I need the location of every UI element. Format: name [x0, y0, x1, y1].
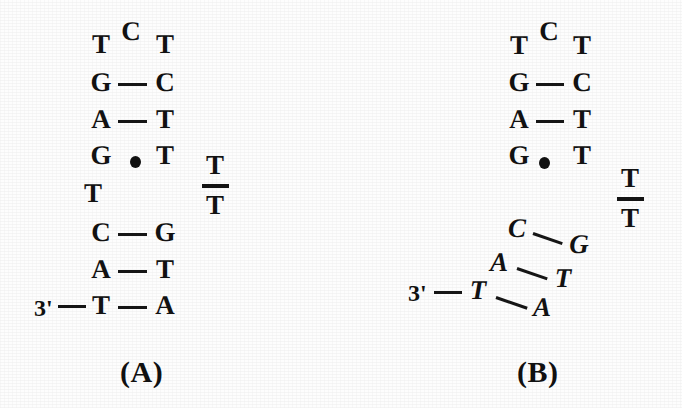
backbone-bond [58, 305, 86, 308]
hydrogen-bond [517, 267, 548, 280]
pair-left-base: T [88, 292, 114, 319]
pair-right-base: T [569, 142, 595, 169]
loop-right-base: T [569, 32, 595, 59]
pair-right-base: G [566, 231, 592, 258]
hydrogen-bond [536, 120, 564, 123]
hydrogen-bond [118, 306, 147, 309]
pair-right-base: T [152, 142, 178, 169]
hydrogen-bond [496, 296, 528, 310]
pair-right-base: C [152, 69, 178, 96]
hydrogen-bond [536, 83, 564, 86]
pair-right-base: T [152, 106, 178, 133]
figure-canvas: C T T G C A T G T T T T C G A T 3' [0, 0, 682, 408]
dangling-end-fraction: T T [613, 165, 647, 232]
pair-left-base: G [88, 69, 114, 96]
pair-left-base: A [506, 106, 532, 133]
three-prime-label: 3' [34, 296, 53, 320]
pair-left-base: G [506, 69, 532, 96]
pair-right-base: A [152, 292, 178, 319]
dangling-end-fraction: T T [198, 152, 232, 219]
fraction-numerator: T [198, 152, 232, 179]
fraction-numerator: T [613, 165, 647, 192]
bulge-base: T [80, 180, 106, 207]
pair-right-base: A [529, 294, 555, 321]
panel-a: C T T G C A T G T T T T C G A T 3' [0, 0, 341, 408]
fraction-denominator: T [613, 205, 647, 232]
pair-left-base: G [506, 142, 532, 169]
pair-left-base: A [88, 256, 114, 283]
pair-left-base: T [465, 277, 491, 304]
panel-caption: (B) [517, 355, 559, 389]
pair-right-base: C [569, 69, 595, 96]
backbone-bond [434, 291, 462, 294]
hydrogen-bond [118, 120, 147, 123]
loop-apex-base: C [536, 18, 562, 45]
fraction-rule [617, 197, 644, 201]
hydrogen-bond [118, 83, 147, 86]
fraction-denominator: T [198, 192, 232, 219]
hydrogen-bond [118, 270, 147, 273]
pair-right-base: T [550, 265, 576, 292]
loop-left-base: T [88, 31, 114, 58]
hydrogen-bond [533, 232, 563, 245]
panel-b: C T T G C A T G T T T C G A T 3' T [341, 0, 682, 408]
pair-left-base: C [504, 215, 530, 242]
loop-right-base: T [152, 31, 178, 58]
loop-apex-base: C [118, 18, 144, 45]
hydrogen-bond [118, 233, 147, 236]
fraction-rule [202, 184, 229, 188]
loop-left-base: T [506, 32, 532, 59]
pair-left-base: G [88, 142, 114, 169]
wobble-pair-dot [539, 157, 550, 169]
wobble-pair-dot [130, 156, 141, 168]
three-prime-label: 3' [408, 281, 427, 305]
pair-left-base: A [486, 249, 512, 276]
pair-right-base: T [152, 256, 178, 283]
pair-right-base: T [569, 106, 595, 133]
pair-left-base: C [88, 219, 114, 246]
pair-right-base: G [152, 219, 178, 246]
pair-left-base: A [88, 106, 114, 133]
panel-caption: (A) [120, 355, 163, 389]
